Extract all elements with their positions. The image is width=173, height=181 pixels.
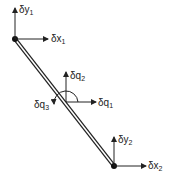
node-1-x-label: δx1 bbox=[51, 33, 66, 45]
node-1-y-label: δy1 bbox=[19, 4, 34, 16]
node-2-y-label: δy2 bbox=[118, 134, 133, 146]
q2-label: δq2 bbox=[70, 70, 85, 82]
q3-label: δq3 bbox=[34, 99, 49, 111]
q1-label: δq1 bbox=[98, 97, 113, 109]
node-2-x-label: δx2 bbox=[148, 160, 163, 172]
beam-diagram: δy1 δx1 δq2 δq1 δq3 δy2 δx2 bbox=[0, 0, 173, 181]
